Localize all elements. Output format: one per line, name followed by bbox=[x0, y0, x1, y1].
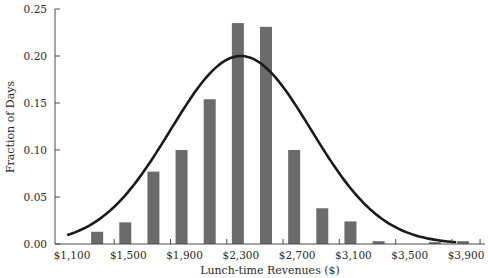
bars-layer bbox=[91, 23, 469, 244]
y-tick-label: 0.00 bbox=[24, 238, 47, 250]
x-tick-label: $3,100 bbox=[335, 249, 372, 261]
y-tick-label: 0.20 bbox=[24, 50, 47, 62]
y-axis-title: Fraction of Days bbox=[4, 81, 17, 174]
x-tick-label: $1,900 bbox=[166, 249, 203, 261]
y-tick-label: 0.15 bbox=[24, 97, 47, 109]
histogram-bar bbox=[204, 99, 216, 244]
x-tick-label: $2,300 bbox=[222, 249, 259, 261]
histogram-chart: 0.000.050.100.150.200.25 $1,100$1,500$1,… bbox=[0, 0, 488, 278]
y-tick-label: 0.10 bbox=[24, 144, 47, 156]
histogram-bar bbox=[288, 150, 300, 244]
histogram-bar bbox=[176, 150, 188, 244]
histogram-bar bbox=[147, 172, 159, 244]
x-axis-title: Lunch-time Revenues ($) bbox=[200, 264, 340, 277]
y-tick-label: 0.05 bbox=[24, 191, 47, 203]
x-tick-label: $3,900 bbox=[448, 249, 485, 261]
x-tick-label: $1,100 bbox=[54, 249, 91, 261]
x-tick-label: $3,500 bbox=[391, 249, 428, 261]
histogram-bar bbox=[316, 208, 328, 244]
histogram-bar bbox=[260, 27, 272, 244]
x-tick-label: $2,700 bbox=[279, 249, 316, 261]
histogram-bar bbox=[344, 221, 356, 244]
histogram-bar bbox=[91, 232, 103, 244]
y-tick-label: 0.25 bbox=[24, 3, 47, 15]
x-tick-label: $1,500 bbox=[110, 249, 147, 261]
histogram-bar bbox=[119, 222, 131, 244]
